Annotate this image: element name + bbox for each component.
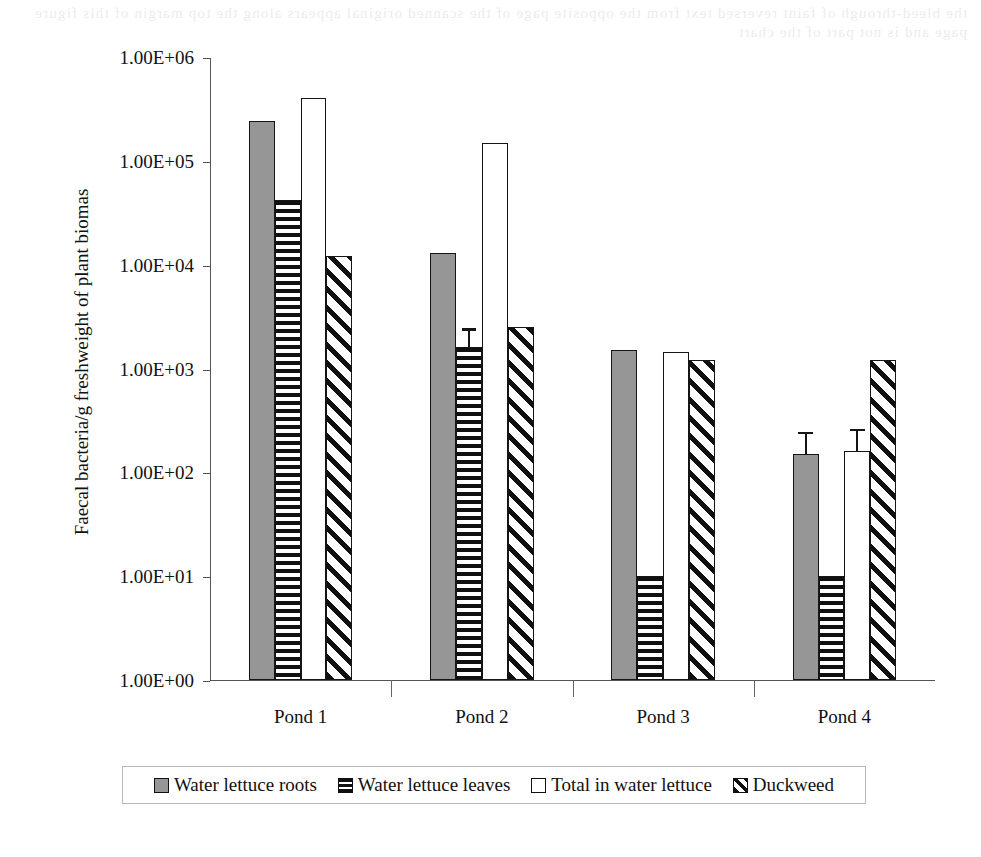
plot-area: 1.00E+001.00E+011.00E+021.00E+031.00E+04…: [210, 58, 935, 681]
y-axis-tick-label: 1.00E+06: [119, 47, 194, 69]
error-bar: [850, 429, 864, 453]
error-bar-cap: [850, 429, 864, 431]
error-bar-cap: [462, 328, 476, 330]
x-axis-category-label: Pond 4: [754, 706, 935, 728]
x-axis-category-label: Pond 3: [573, 706, 754, 728]
error-bar: [798, 432, 812, 455]
bar: [249, 121, 275, 680]
legend-swatch-diagonal-stripes: [733, 778, 748, 793]
legend-label: Water lettuce leaves: [358, 774, 511, 796]
legend-swatch-solid-gray: [154, 778, 169, 793]
y-axis-tick: 1.00E+00: [203, 681, 210, 682]
error-bar-stem: [856, 429, 858, 453]
bar-chart: Faecal bacteria/g freshweight of plant b…: [0, 0, 981, 857]
y-axis-tick-label: 1.00E+02: [119, 462, 194, 484]
x-axis-category-label: Pond 1: [210, 706, 391, 728]
bar: [326, 256, 352, 680]
bar: [870, 360, 896, 680]
bar: [689, 360, 715, 680]
y-axis-tick-label: 1.00E+01: [119, 566, 194, 588]
bar: [663, 352, 689, 680]
y-axis-tick-label: 1.00E+03: [119, 359, 194, 381]
bar: [482, 143, 508, 680]
y-axis-line: [210, 58, 211, 681]
legend-label: Duckweed: [753, 774, 834, 796]
bar: [611, 350, 637, 680]
chart-legend: Water lettuce rootsWater lettuce leavesT…: [122, 766, 866, 804]
bar: [301, 98, 327, 680]
y-axis-tick-label: 1.00E+05: [119, 151, 194, 173]
y-axis-tick: 1.00E+06: [203, 58, 210, 59]
y-axis-tick: 1.00E+02: [203, 473, 210, 474]
bar: [819, 576, 845, 680]
bar: [844, 451, 870, 680]
error-bar-cap: [798, 432, 812, 434]
y-axis-tick: 1.00E+01: [203, 577, 210, 578]
legend-swatch-horizontal-stripes: [338, 778, 353, 793]
bar: [508, 327, 534, 680]
legend-label: Total in water lettuce: [551, 774, 712, 796]
x-axis-category-label: Pond 2: [391, 706, 572, 728]
x-axis-separator: [754, 680, 755, 697]
error-bar-stem: [468, 328, 470, 348]
legend-item[interactable]: Duckweed: [733, 774, 834, 796]
bar: [793, 454, 819, 680]
legend-swatch-empty-white: [531, 778, 546, 793]
error-bar-stem: [805, 432, 807, 455]
legend-item[interactable]: Total in water lettuce: [531, 774, 712, 796]
bar: [275, 200, 301, 680]
legend-item[interactable]: Water lettuce roots: [154, 774, 317, 796]
bar: [430, 253, 456, 680]
legend-item[interactable]: Water lettuce leaves: [338, 774, 511, 796]
x-axis-separator: [573, 680, 574, 697]
y-axis-tick: 1.00E+05: [203, 162, 210, 163]
y-axis-tick: 1.00E+03: [203, 370, 210, 371]
y-axis-tick-label: 1.00E+04: [119, 255, 194, 277]
legend-label: Water lettuce roots: [174, 774, 317, 796]
x-axis-separator: [391, 680, 392, 697]
error-bar: [462, 328, 476, 348]
bar: [456, 347, 482, 680]
y-axis-tick: 1.00E+04: [203, 266, 210, 267]
y-axis-title: Faecal bacteria/g freshweight of plant b…: [71, 112, 93, 612]
bar: [637, 576, 663, 680]
y-axis-tick-label: 1.00E+00: [119, 670, 194, 692]
